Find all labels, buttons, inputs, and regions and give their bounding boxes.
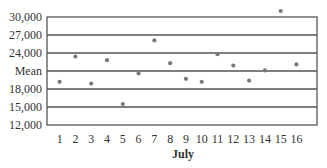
x-tick-label: 11 [212,132,224,146]
x-tick-label: 6 [136,132,142,146]
x-tick-label: 9 [183,132,189,146]
y-axis-tick-labels: 12,00015,00018,000Mean24,00027,00030,000 [9,10,42,132]
data-point [89,82,93,86]
data-point [73,55,77,59]
data-point [279,9,283,13]
x-tick-label: 16 [290,132,302,146]
y-tick-label: Mean [15,64,42,78]
x-tick-label: 4 [104,132,110,146]
x-tick-label: 7 [151,132,157,146]
x-tick-label: 10 [196,132,208,146]
x-tick-label: 8 [167,132,173,146]
x-tick-label: 15 [275,132,287,146]
data-point [168,61,172,65]
data-point [58,80,62,84]
x-axis-tick-labels: 12345678910111213141516 [57,132,303,146]
x-tick-label: 5 [120,132,126,146]
data-point [136,71,140,75]
x-tick-label: 12 [227,132,239,146]
y-tick-label: 15,000 [9,100,42,114]
data-point [200,80,204,84]
y-tick-label: 18,000 [9,82,42,96]
x-tick-label: 1 [57,132,63,146]
data-point [121,102,125,106]
x-tick-label: 14 [259,132,271,146]
x-tick-label: 13 [243,132,255,146]
y-tick-label: 27,000 [9,28,42,42]
data-point [184,77,188,81]
y-tick-label: 30,000 [9,10,42,24]
y-tick-label: 12,000 [9,118,42,132]
x-tick-label: 3 [88,132,94,146]
data-point [231,64,235,68]
x-axis-title: July [172,147,194,161]
x-tick-label: 2 [72,132,78,146]
y-tick-label: 24,000 [9,46,42,60]
data-point [247,79,251,83]
scatter-chart: 12,00015,00018,000Mean24,00027,00030,000… [0,0,327,168]
data-point [294,62,298,66]
data-point [215,52,219,56]
grid-lines [47,35,317,107]
data-points [58,9,299,106]
data-point [105,58,109,62]
data-point [152,38,156,42]
data-point [263,68,267,72]
